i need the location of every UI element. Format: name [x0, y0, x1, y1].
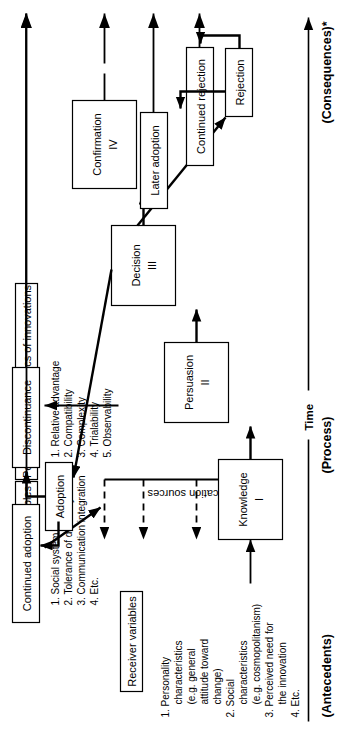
receiver-item-0: 1. Personality: [159, 656, 170, 717]
confirmation-numeral: IV: [106, 138, 118, 149]
receiver-item-9: the innovation: [276, 642, 287, 704]
receiver-item-10: 4. Etc.: [289, 689, 300, 717]
continued-rejection-label: Continued rejection: [194, 59, 206, 154]
decision-numeral: III: [145, 260, 157, 269]
knowledge-numeral: I: [252, 497, 264, 500]
label-antecedents: (Antecedents): [319, 634, 333, 717]
persuasion-label: Persuasion: [182, 354, 194, 409]
panel-receiver-variables: Receiver variables 1. Personality charac…: [120, 591, 300, 717]
receiver-item-8: 3. Perceived need for: [263, 621, 274, 717]
innovation-decision-process-svg: (Antecedents) (Process) (Consequences)* …: [0, 0, 359, 735]
arrow-rejection-continued-rejection: [200, 35, 239, 48]
sysvar-item-3: 4. Etc.: [88, 577, 99, 605]
pci-item-4: 5. Observability: [101, 388, 112, 457]
decision-label: Decision: [129, 244, 141, 286]
diagram-rotated-layer: (Antecedents) (Process) (Consequences)* …: [0, 0, 359, 735]
later-adoption-label: Later adoption: [148, 125, 160, 195]
decision-box: [111, 225, 175, 305]
receiver-item-2: (e.g. general: [185, 648, 196, 704]
receiver-item-7: (e.g. cosmopolitanism): [250, 603, 261, 704]
pci-item-1: 2. Compatibility: [62, 389, 73, 457]
label-consequences: (Consequences)*: [319, 21, 333, 123]
time-axis-label: Time: [302, 403, 314, 430]
pci-item-3: 4. Trialability: [88, 401, 99, 457]
receiver-item-3: attitude toward: [198, 638, 209, 704]
adoption-label: Adoption: [53, 474, 65, 517]
receiver-variables-title: Receiver variables: [125, 595, 137, 686]
rejection-label: Rejection: [233, 59, 245, 105]
persuasion-box: [164, 342, 228, 422]
knowledge-box: [218, 459, 282, 539]
receiver-item-5: 2. Social: [224, 679, 235, 717]
diagram-canvas: (Antecedents) (Process) (Consequences)* …: [0, 0, 359, 735]
knowledge-label: Knowledge: [236, 472, 248, 526]
receiver-item-6: characteristics: [237, 640, 248, 704]
continued-adoption-label: Continued adoption: [20, 515, 32, 610]
receiver-item-1: characteristics: [172, 640, 183, 704]
sysvar-item-2: 3. Communication integration: [75, 475, 86, 605]
confirmation-box: [72, 100, 136, 188]
persuasion-numeral: II: [198, 379, 210, 385]
label-process: (Process): [319, 416, 333, 473]
time-axis: Time: [302, 17, 314, 721]
receiver-item-4: change): [211, 668, 222, 704]
confirmation-label: Confirmation: [90, 113, 102, 175]
pci-item-0: 1. Relative advantage: [49, 360, 60, 457]
